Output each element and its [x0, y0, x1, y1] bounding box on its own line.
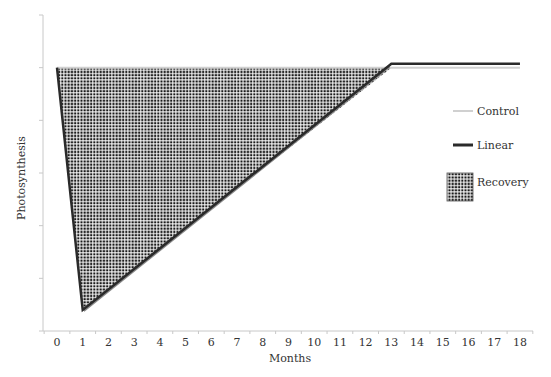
legend-item-control: Control [453, 105, 519, 118]
legend-label-control: Control [477, 105, 519, 118]
y-axis [39, 15, 43, 331]
x-tick-label: 9 [285, 336, 292, 349]
legend-label-linear: Linear [477, 139, 514, 152]
x-tick-label: 11 [333, 336, 347, 349]
x-axis-title: Months [269, 352, 311, 365]
x-tick-label: 7 [234, 336, 241, 349]
x-tick-label: 1 [79, 336, 86, 349]
x-axis: 0123456789101112131415161718 [43, 331, 533, 349]
x-tick-label: 13 [384, 336, 398, 349]
x-tick-label: 15 [436, 336, 450, 349]
x-tick-label: 6 [208, 336, 215, 349]
legend-item-recovery: Recovery [447, 173, 530, 201]
x-tick-label: 10 [307, 336, 321, 349]
x-tick-label: 4 [156, 336, 163, 349]
x-tick-label: 0 [54, 336, 61, 349]
x-tick-label: 18 [513, 336, 527, 349]
legend-label-recovery: Recovery [477, 176, 530, 189]
x-tick-label: 16 [462, 336, 476, 349]
x-tick-label: 5 [182, 336, 189, 349]
y-axis-title: Photosynthesis [15, 136, 28, 220]
x-tick-label: 2 [105, 336, 112, 349]
x-tick-label: 8 [259, 336, 266, 349]
x-tick-label: 17 [487, 336, 501, 349]
recovery-swatch-icon [447, 173, 473, 201]
legend: Control Linear Recovery [447, 105, 530, 201]
legend-item-linear: Linear [453, 139, 514, 152]
x-tick-label: 12 [359, 336, 373, 349]
chart: 0123456789101112131415161718 Months Phot… [0, 0, 551, 377]
x-tick-label: 3 [131, 336, 138, 349]
x-tick-label: 14 [410, 336, 424, 349]
